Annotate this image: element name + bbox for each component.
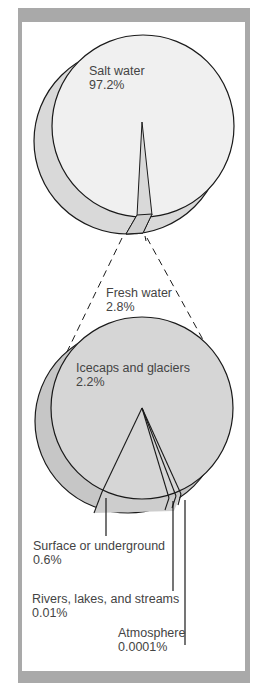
label-value: 2.8% <box>106 300 172 314</box>
label-name: Fresh water <box>106 286 172 300</box>
label-value: 2.2% <box>76 375 190 389</box>
label-rivers: Rivers, lakes, and streams 0.01% <box>32 592 179 620</box>
label-name: Icecaps and glaciers <box>76 361 190 375</box>
label-salt-water: Salt water 97.2% <box>89 64 145 92</box>
label-value: 97.2% <box>89 78 145 92</box>
pie-charts <box>0 0 260 691</box>
label-name: Rivers, lakes, and streams <box>32 592 179 606</box>
label-name: Atmosphere <box>118 626 185 640</box>
label-name: Surface or underground <box>33 539 165 553</box>
label-atmosphere: Atmosphere 0.0001% <box>118 626 185 654</box>
label-surface: Surface or underground 0.6% <box>33 539 165 567</box>
label-value: 0.6% <box>33 553 165 567</box>
label-icecaps: Icecaps and glaciers 2.2% <box>76 361 190 389</box>
label-value: 0.0001% <box>118 640 185 654</box>
label-name: Salt water <box>89 64 145 78</box>
label-value: 0.01% <box>32 606 179 620</box>
label-fresh-water: Fresh water 2.8% <box>106 286 172 314</box>
